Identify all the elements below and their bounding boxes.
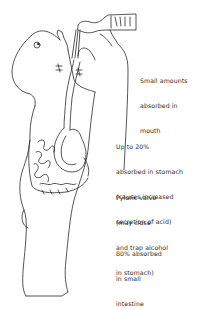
small-intestine — [29, 140, 88, 194]
absorption-arrows-mouth — [56, 64, 82, 76]
stomach — [54, 128, 86, 172]
eye-icon — [34, 42, 40, 48]
label-intestine-absorption: 80% absorbed in small intestine — [116, 233, 162, 310]
face-outline — [57, 30, 68, 50]
torso-outline — [20, 106, 35, 296]
bottle-icon — [78, 14, 136, 33]
